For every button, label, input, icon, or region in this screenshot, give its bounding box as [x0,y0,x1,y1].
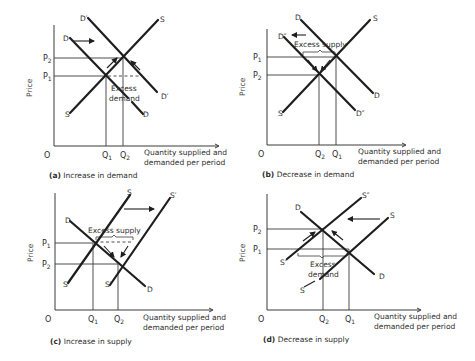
svg-text:D: D [65,216,71,225]
svg-text:(c) Increase in supply: (c) Increase in supply [50,337,132,346]
adjust-arrow-icon [321,60,330,71]
svg-text:P2: P2 [43,54,52,64]
svg-text:Price: Price [238,243,247,262]
svg-text:Q1: Q1 [102,151,112,161]
svg-text:D: D [295,13,301,22]
svg-text:S′: S′ [105,280,112,289]
panel-b-decrease-in-demand: P1 P2 Q2 Q1 O D S D″ S D D″ Excess suppl… [238,13,441,179]
svg-text:S: S [63,280,68,289]
svg-text:Quantity supplied and: Quantity supplied and [358,147,441,156]
svg-text:P2: P2 [253,71,262,81]
svg-text:Q1: Q1 [345,315,355,325]
svg-text:D: D [143,110,149,119]
svg-text:Q2: Q2 [315,150,325,160]
svg-text:P2: P2 [253,225,262,235]
supply-tail-mark [304,281,315,287]
panel-c-increase-in-supply: P1 P2 Q1 Q2 O S S′ D S S′ D Excess suppl… [26,188,226,346]
svg-text:demanded per period: demanded per period [143,323,225,332]
svg-text:(a) Increase in demand: (a) Increase in demand [49,171,138,180]
svg-text:D: D [379,272,385,281]
panel-d-decrease-in-supply: P2 P1 Q2 Q1 O S″ S D S″ S D Excess deman… [238,191,457,344]
svg-text:D″: D″ [356,109,365,118]
svg-text:S: S [278,109,283,118]
svg-text:Q2: Q2 [120,151,130,161]
svg-text:Q2: Q2 [319,315,329,325]
svg-text:(b) Decrease in demand: (b) Decrease in demand [262,170,354,179]
svg-text:P1: P1 [43,72,52,82]
svg-text:D: D [295,203,301,212]
svg-text:Quantity supplied and: Quantity supplied and [143,313,226,322]
svg-text:S: S [373,14,378,23]
svg-text:demanded per period: demanded per period [374,322,456,331]
svg-text:O: O [258,315,264,324]
svg-text:Excess: Excess [310,260,336,269]
svg-text:O: O [45,315,51,324]
svg-text:Price: Price [238,77,247,96]
svg-text:(d) Decrease in supply: (d) Decrease in supply [263,335,350,344]
svg-text:P1: P1 [42,239,51,249]
supply-curve-s [283,20,370,112]
supply-demand-figure: P2 P1 Q1 Q2 O D′ S D S D′ D Excess deman… [0,0,475,361]
svg-text:Q1: Q1 [332,150,342,160]
svg-text:P1: P1 [253,245,262,255]
svg-text:Excess supply: Excess supply [294,40,347,49]
svg-text:Quantity supplied and: Quantity supplied and [144,148,227,157]
adjust-arrow-icon [121,246,128,257]
svg-text:Price: Price [25,78,34,97]
svg-text:D: D [147,285,153,294]
panel-a-increase-in-demand: P2 P1 Q1 Q2 O D′ S D S D′ D Excess deman… [25,14,227,180]
svg-text:D″: D″ [278,32,287,41]
svg-text:D′: D′ [161,92,169,101]
svg-text:Q1: Q1 [88,315,98,325]
svg-text:S″: S″ [362,191,370,200]
svg-text:S: S [300,286,305,295]
svg-text:S: S [127,188,132,197]
svg-text:demanded per period: demanded per period [144,158,226,167]
svg-text:O: O [44,151,50,160]
svg-text:P1: P1 [253,53,262,63]
svg-text:D: D [63,34,69,43]
svg-text:P2: P2 [42,260,51,270]
svg-text:Price: Price [26,243,35,262]
svg-text:O: O [258,150,264,159]
svg-text:D′: D′ [80,14,88,23]
svg-text:Excess supply: Excess supply [88,226,141,235]
svg-text:demand: demand [308,270,339,279]
svg-text:S′: S′ [170,191,177,200]
svg-text:Q2: Q2 [114,315,124,325]
adjust-arrow-icon [308,60,317,71]
svg-text:Excess: Excess [111,84,137,93]
svg-text:D: D [374,91,380,100]
svg-text:S: S [390,211,395,220]
demand-curve-d-lower [132,102,143,114]
svg-text:demand: demand [109,94,140,103]
svg-text:Quantity supplied and: Quantity supplied and [374,312,457,321]
demand-curve-d-prime [88,18,157,92]
svg-text:demanded per period: demanded per period [358,157,440,166]
svg-text:S″: S″ [280,258,288,267]
svg-text:S: S [65,110,70,119]
svg-text:S: S [160,15,165,24]
